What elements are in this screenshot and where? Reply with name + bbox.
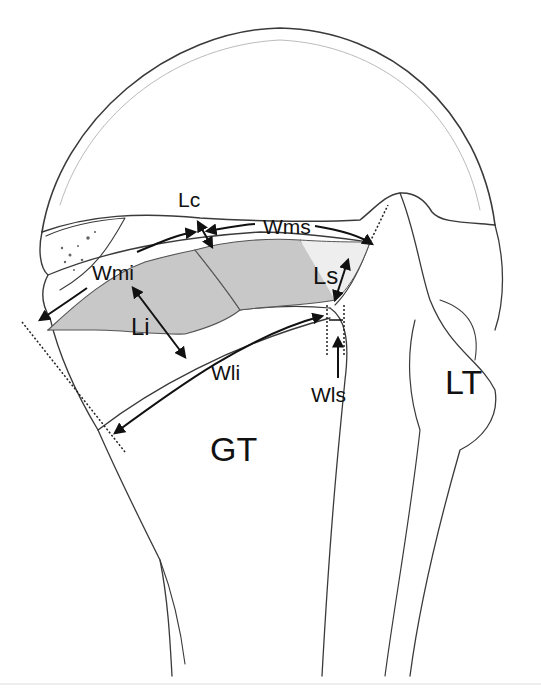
label-li: Li (131, 315, 150, 339)
label-wli: Wli (211, 362, 240, 383)
label-wms: Wms (263, 216, 311, 237)
label-wls: Wls (311, 384, 346, 405)
label-lt: LT (445, 365, 482, 399)
label-lc: Lc (178, 189, 200, 210)
label-ls: Ls (313, 264, 338, 288)
humerus-drawing (0, 0, 541, 692)
humerus-diagram: Lc Wms Wmi Ls Li Wli Wls GT LT (0, 0, 541, 692)
label-wmi: Wmi (92, 262, 134, 283)
wms-arrow-left (207, 224, 255, 231)
humeral-head-outline (42, 28, 495, 232)
label-gt: GT (210, 432, 257, 466)
lc-arrow (198, 222, 212, 247)
